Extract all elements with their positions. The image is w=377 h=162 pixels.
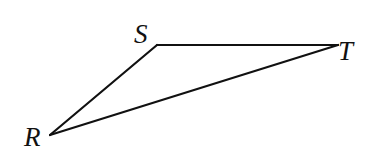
triangle-rst-diagram: S T R	[0, 0, 377, 162]
vertex-label-s: S	[134, 19, 148, 49]
edge-r-s	[50, 45, 157, 135]
edge-t-r	[50, 45, 338, 135]
vertex-label-t: T	[338, 36, 355, 66]
vertex-label-r: R	[23, 122, 41, 152]
